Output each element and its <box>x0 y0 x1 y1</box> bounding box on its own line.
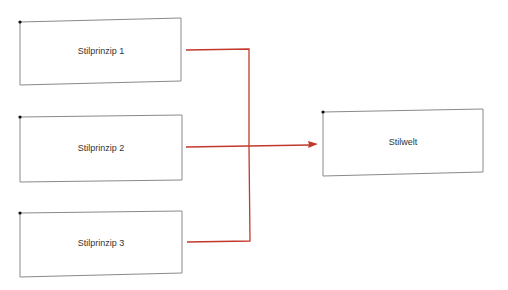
arrowhead-icon <box>308 141 318 148</box>
label-stilprinzip-3: Stilprinzip 3 <box>78 238 125 248</box>
anchor-dot-icon <box>18 115 21 118</box>
label-stilprinzip-2: Stilprinzip 2 <box>78 143 125 153</box>
label-stilprinzip-1: Stilprinzip 1 <box>78 46 125 56</box>
anchor-dot-icon <box>321 110 324 113</box>
label-stilwelt: Stilwelt <box>389 137 418 147</box>
anchor-dot-icon <box>18 20 21 23</box>
connector-2 <box>186 145 310 147</box>
connector-1 <box>186 49 249 147</box>
diagram-canvas <box>0 0 508 290</box>
anchor-dot-icon <box>18 211 21 214</box>
connector-3 <box>187 147 250 242</box>
